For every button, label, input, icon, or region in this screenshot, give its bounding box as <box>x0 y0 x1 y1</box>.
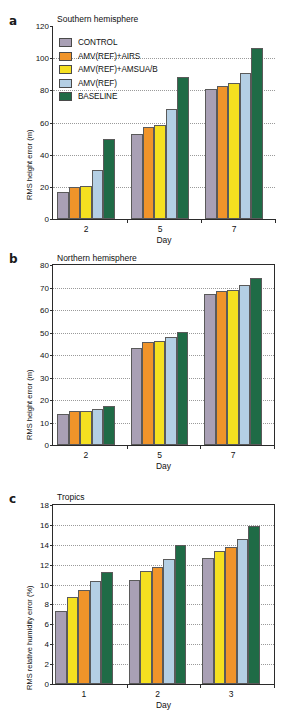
legend-item: BASELINE <box>59 90 158 104</box>
panel-title-b: Northern hemisphere <box>57 253 137 263</box>
y-tick-label: 14 <box>40 540 49 549</box>
y-tick-label: 60 <box>40 306 49 315</box>
y-tick-mark <box>50 187 53 188</box>
x-tick-mark <box>127 219 128 223</box>
bar <box>237 539 249 684</box>
legend-swatch-icon <box>59 79 72 88</box>
legend-item-label: AMV(REF)+AIRS <box>78 52 140 61</box>
legend-swatch-icon <box>59 38 72 47</box>
bar <box>69 187 81 219</box>
legend-item-label: AMV(REF)+AMSUA/B <box>78 65 158 74</box>
bar <box>129 580 141 684</box>
figure-rms-error-panels: a Southern hemisphere RMS height error (… <box>0 0 286 727</box>
bar <box>80 411 92 445</box>
legend-item-label: AMV(REF) <box>78 79 117 88</box>
panel-title-a: Southern hemisphere <box>57 14 138 24</box>
bar <box>67 597 79 684</box>
y-tick-label: 80 <box>40 261 49 270</box>
y-tick-label: 100 <box>36 54 49 63</box>
bar <box>251 48 263 219</box>
bar <box>80 186 92 219</box>
panel-b-northern-hemisphere: b Northern hemisphere RMS height error (… <box>0 250 286 490</box>
plot-area-c: 024681012141618123Day <box>52 504 275 685</box>
y-tick-label: 0 <box>45 441 49 450</box>
x-tick-label: 2 <box>84 224 89 234</box>
x-axis-title: Day <box>156 700 171 710</box>
y-tick-label: 0 <box>45 215 49 224</box>
y-tick-mark <box>50 445 53 446</box>
bar <box>143 127 155 219</box>
y-tick-mark <box>50 355 53 356</box>
bar <box>202 558 214 684</box>
x-tick-label: 3 <box>229 689 234 699</box>
y-tick-label: 8 <box>45 600 49 609</box>
bar <box>214 551 226 684</box>
bar <box>205 89 217 219</box>
bar <box>55 611 67 684</box>
y-tick-label: 20 <box>40 182 49 191</box>
bar <box>69 411 81 445</box>
y-tick-label: 4 <box>45 640 49 649</box>
y-axis-title-a: RMS height error (m) <box>25 130 34 200</box>
y-tick-label: 30 <box>40 373 49 382</box>
x-tick-label: 1 <box>81 689 86 699</box>
y-tick-label: 60 <box>40 118 49 127</box>
x-tick-mark <box>200 445 201 449</box>
legend-item: AMV(REF) <box>59 77 158 91</box>
bar <box>228 83 240 219</box>
panel-letter-c: c <box>9 492 16 506</box>
legend-swatch-icon <box>59 65 72 74</box>
x-tick-label: 7 <box>232 224 237 234</box>
y-tick-mark <box>50 604 53 605</box>
bar <box>90 581 102 684</box>
y-tick-mark <box>50 310 53 311</box>
panel-title-c: Tropics <box>57 492 85 502</box>
y-tick-label: 40 <box>40 150 49 159</box>
y-tick-mark <box>50 90 53 91</box>
plot-area-b: 01020304050607080257Day <box>52 264 275 446</box>
y-tick-mark <box>50 525 53 526</box>
bar <box>177 332 189 445</box>
x-tick-mark <box>200 684 201 688</box>
x-tick-label: 5 <box>158 224 163 234</box>
bar <box>227 290 239 445</box>
y-tick-mark <box>50 288 53 289</box>
bar <box>166 109 178 219</box>
y-tick-mark <box>50 378 53 379</box>
y-tick-mark <box>50 624 53 625</box>
y-tick-label: 80 <box>40 86 49 95</box>
x-tick-label: 2 <box>83 450 88 460</box>
y-tick-mark <box>50 155 53 156</box>
bar <box>217 86 229 219</box>
bar <box>92 170 104 219</box>
bar <box>142 342 154 446</box>
y-tick-mark <box>50 565 53 566</box>
y-tick-label: 0 <box>45 680 49 689</box>
bar <box>165 337 177 445</box>
x-tick-mark <box>274 684 275 688</box>
x-axis-title: Day <box>156 461 171 471</box>
panel-letter-a: a <box>9 14 17 28</box>
bar <box>101 572 113 684</box>
y-axis-title-c: RMS relative humidity error (%) <box>25 585 34 690</box>
y-tick-label: 12 <box>40 560 49 569</box>
legend-swatch-icon <box>59 52 72 61</box>
bar <box>177 77 189 219</box>
y-tick-mark <box>50 26 53 27</box>
bar <box>152 567 164 684</box>
bar <box>57 414 69 445</box>
bar <box>204 294 216 445</box>
bar <box>250 278 262 445</box>
bar <box>103 139 115 219</box>
y-tick-mark <box>50 545 53 546</box>
y-tick-mark <box>50 644 53 645</box>
bar <box>57 192 69 219</box>
x-tick-mark <box>275 219 276 223</box>
x-tick-mark <box>274 445 275 449</box>
x-tick-mark <box>201 219 202 223</box>
x-tick-mark <box>127 445 128 449</box>
panel-a-southern-hemisphere: a Southern hemisphere RMS height error (… <box>0 0 286 250</box>
legend-swatch-icon <box>59 92 72 101</box>
bar <box>248 526 260 684</box>
y-tick-mark <box>50 585 53 586</box>
